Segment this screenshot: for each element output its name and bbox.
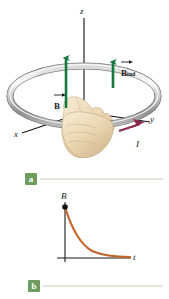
chart-decay-curve [65, 207, 130, 257]
panel-a-caption-row: a [0, 172, 169, 186]
chart-initial-point [62, 204, 68, 210]
chart-y-axis-label: B [61, 192, 67, 201]
axis-label-z: z [80, 7, 84, 16]
axis-label-x: x [14, 130, 18, 139]
panel-a-badge: a [25, 173, 37, 185]
panel-b-caption-row: b [0, 279, 169, 293]
b-field-label: B [54, 93, 60, 112]
panel-b-rule [43, 285, 163, 287]
current-label: I [136, 140, 139, 149]
axis-label-y: y [150, 115, 154, 124]
panel-a-rule [40, 178, 163, 180]
vector-arrow-accent-bind [121, 60, 135, 64]
b-induced-label: Bind [121, 60, 135, 79]
b-field-label-text: B [54, 101, 60, 111]
b-vs-t-chart [0, 190, 169, 280]
induction-ring-diagram [0, 0, 169, 170]
vector-arrow-accent-b [54, 93, 60, 97]
b-induced-label-subscript: ind [127, 71, 135, 77]
chart-x-axis-label: t [133, 253, 136, 262]
panel-b-badge: b [28, 280, 40, 292]
